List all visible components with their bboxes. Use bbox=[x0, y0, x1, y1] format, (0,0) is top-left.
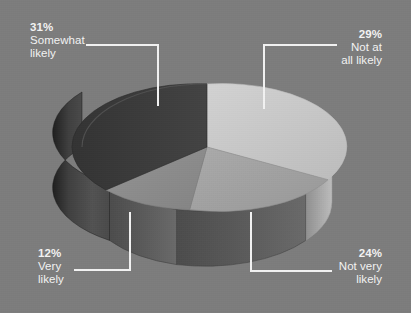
callout-label-line2-not-very-likely: likely bbox=[339, 273, 382, 286]
callout-label-line1-not-at-all-likely: Not at bbox=[341, 41, 382, 54]
callout-label-line2-not-at-all-likely: all likely bbox=[341, 54, 382, 67]
pie-chart-figure: 31% Somewhat likely 29% Not at all likel… bbox=[0, 0, 411, 313]
callout-label-line2-very-likely: likely bbox=[38, 273, 64, 286]
callout-label-line1-very-likely: Very bbox=[38, 260, 64, 273]
callout-percent-not-very-likely: 24% bbox=[339, 247, 382, 260]
callout-label-line2-somewhat-likely: likely bbox=[30, 47, 85, 60]
callout-not-very-likely: 24% Not very likely bbox=[339, 247, 382, 286]
callout-label-line1-somewhat-likely: Somewhat bbox=[30, 34, 85, 47]
callout-very-likely: 12% Very likely bbox=[38, 247, 64, 286]
callout-percent-very-likely: 12% bbox=[38, 247, 64, 260]
callout-somewhat-likely: 31% Somewhat likely bbox=[30, 21, 85, 60]
callout-percent-not-at-all-likely: 29% bbox=[341, 28, 382, 41]
callout-not-at-all-likely: 29% Not at all likely bbox=[341, 28, 382, 67]
callout-label-line1-not-very-likely: Not very bbox=[339, 260, 382, 273]
callout-percent-somewhat-likely: 31% bbox=[30, 21, 85, 34]
